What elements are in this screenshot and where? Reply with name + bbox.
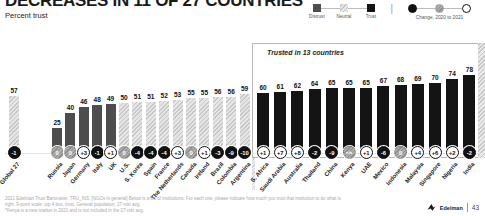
value-india: 78 [458,66,480,73]
brand-name: Edelman [440,205,463,211]
change-positive-icon [462,4,471,13]
change-badge-japan: 0 [64,146,77,159]
bar-china [326,88,338,153]
brand-separator [467,203,468,212]
bar-brazil [213,97,223,153]
trust-swatch-icon [367,4,375,12]
change-badge-s-korea: -4 [131,146,144,159]
change-badge-australia: +8 [291,146,304,159]
bar-saudi-arabia [274,92,286,153]
bar-uae [360,88,372,153]
value-global-27: 57 [3,87,25,94]
legend-label-distrust: Distrust [309,14,325,19]
edelman-logo-icon [427,203,436,212]
change-badge-kenya: n/a [343,146,356,159]
bar-ireland [199,98,209,153]
change-badge-global-27: -1 [8,146,21,159]
bar-singapore [429,83,441,153]
change-badge-uae: +1 [360,146,373,159]
right-edge-hatch [478,43,485,158]
change-negative-icon [408,4,417,13]
change-badge-indonesia: 0 [394,146,407,159]
change-badge-colombia: -9 [225,146,238,159]
trusted-group-label: Trusted in 13 countries [267,49,344,56]
bar-thailand [309,89,321,153]
legend-item-distrust: Distrust [303,4,330,19]
change-badge-u-s-: 0 [118,146,131,159]
legend-change-positive [453,4,480,13]
legend-change-negative [399,4,426,13]
change-badge-s-africa: +1 [257,146,270,159]
legend-bands: Distrust Neutral Trust [303,4,384,19]
bar-kenya [343,88,355,153]
bar-australia [291,91,303,153]
bar-s-africa [257,93,269,153]
bar-india [463,75,475,153]
change-badge-spain: -4 [144,146,157,159]
change-badge-france: -4 [158,146,171,159]
change-badge-nigeria: +2 [446,146,459,159]
change-badge-mexico: -6 [377,146,390,159]
bar-argentina [240,94,250,153]
legend-label-trust: Trust [366,14,376,19]
change-badge-russia: 0 [51,146,64,159]
change-badge-the-netherlands: +3 [171,146,184,159]
bar-canada [186,98,196,153]
brand-footer: Edelman 43 [427,203,479,212]
source-line-2: *Kenya is a new market in 2021 and is no… [5,208,350,214]
change-badge-italy: -1 [91,146,104,159]
bar-malaysia [412,84,424,153]
change-badge-singapore: +6 [429,146,442,159]
bar-chart: Trusted in 13 countries 57-1Global 27250… [0,0,485,216]
distrust-swatch-icon [313,4,321,12]
change-badge-saudi-arabia: +7 [274,146,287,159]
change-badge-argentina: -10 [238,146,251,159]
source-line-1: 2021 Edelman Trust Barometer. TRU_INS. [… [5,196,350,208]
source-footnote: 2021 Edelman Trust Barometer. TRU_INS. [… [5,196,350,214]
legend-change-zero [426,4,453,13]
change-badge-ireland: +1 [198,146,211,159]
change-badge-canada: 0 [185,146,198,159]
legend-label-neutral: Neutral [336,14,351,19]
legend-item-neutral: Neutral [330,4,357,19]
change-badge-uk: +1 [104,146,117,159]
bar-mexico [377,86,389,153]
bar-nigeria [446,79,458,153]
legend-item-trust: Trust [357,4,384,19]
change-zero-icon [435,4,444,13]
change-badge-brazil: -3 [211,146,224,159]
neutral-swatch-icon [340,4,348,12]
bar-global-27 [9,96,19,153]
change-badge-india: -2 [463,146,476,159]
change-badge-thailand: -2 [308,146,321,159]
bar-indonesia [395,85,407,153]
bar-colombia [226,97,236,153]
change-badge-germany: +3 [77,146,90,159]
page-number: 43 [472,204,479,211]
